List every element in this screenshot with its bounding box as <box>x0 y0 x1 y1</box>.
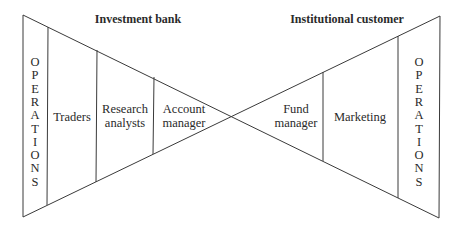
left-operations-letter: T <box>31 122 39 136</box>
right-operations-label: OPERATIONS <box>414 55 423 189</box>
divider-traders-research <box>96 50 97 182</box>
label-marketing: Marketing <box>334 110 387 124</box>
label-traders: Traders <box>53 110 91 124</box>
left-operations-letter: A <box>30 108 39 122</box>
label-fund-line1: Fund <box>283 102 309 116</box>
heading-investment-bank: Investment bank <box>95 12 182 26</box>
left-operations-letter: I <box>33 135 37 149</box>
label-research-line1: Research <box>102 102 149 116</box>
right-operations-letter: O <box>414 55 423 69</box>
right-operations-letter: A <box>414 108 423 122</box>
label-account-line2: manager <box>162 116 206 130</box>
left-operations-letter: R <box>31 95 40 109</box>
left-operations-letter: P <box>32 68 39 82</box>
right-operations-letter: R <box>415 95 424 109</box>
right-operations-letter: N <box>414 161 423 175</box>
label-fund-line2: manager <box>274 116 318 130</box>
divider-research-account <box>153 77 154 154</box>
divider-operations-traders <box>47 27 48 205</box>
right-operations-letter: T <box>415 122 423 136</box>
label-research-line2: analysts <box>105 116 145 130</box>
left-operations-letter: N <box>30 161 39 175</box>
left-operations-letter: O <box>30 148 39 162</box>
bowtie-diagram: Investment bank Institutional customer O… <box>0 0 462 230</box>
right-operations-letter: S <box>416 175 423 189</box>
right-outer-edge <box>439 16 440 218</box>
right-operations-letter: O <box>414 148 423 162</box>
left-operations-label: OPERATIONS <box>30 55 39 189</box>
right-operations-letter: I <box>417 135 421 149</box>
right-operations-letter: E <box>415 82 423 96</box>
label-account-line1: Account <box>163 102 206 116</box>
left-operations-letter: S <box>32 175 39 189</box>
heading-institutional-customer: Institutional customer <box>290 12 404 26</box>
left-operations-letter: O <box>30 55 39 69</box>
left-operations-letter: E <box>31 82 39 96</box>
right-operations-letter: P <box>416 68 423 82</box>
